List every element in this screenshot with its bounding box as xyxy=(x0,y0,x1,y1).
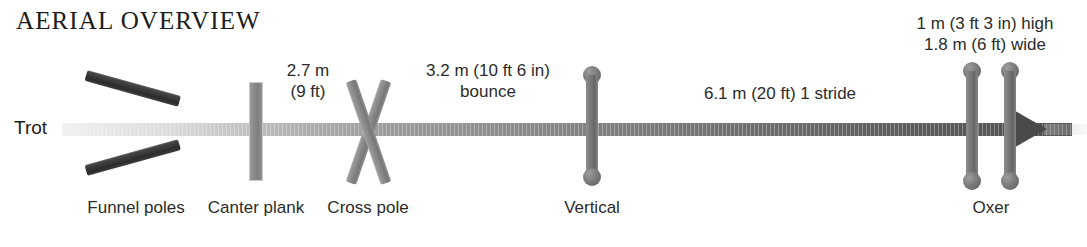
canter-plank-shape xyxy=(249,82,263,181)
aerial-overview-diagram: AERIAL OVERVIEW Trot Funnel poles Canter… xyxy=(0,0,1087,247)
distance-canter-plank-to-cross-pole: 2.7 m (9 ft) xyxy=(268,60,348,102)
standard-ball-bottom xyxy=(583,168,601,186)
distance-line-metric: 3.2 m (10 ft 6 in) xyxy=(398,60,578,81)
funnel-pole-bottom xyxy=(85,139,181,176)
obstacle-label-vertical: Vertical xyxy=(532,198,652,218)
obstacle-label-funnel-poles: Funnel poles xyxy=(76,198,196,218)
obstacle-label-oxer: Oxer xyxy=(931,198,1051,218)
obstacle-label-canter-plank: Canter plank xyxy=(196,198,316,218)
standard-post xyxy=(586,75,598,177)
distance-cross-pole-to-vertical: 3.2 m (10 ft 6 in) bounce xyxy=(398,60,578,102)
track-tail xyxy=(1044,124,1087,135)
page-title: AERIAL OVERVIEW xyxy=(16,7,261,35)
funnel-pole-top xyxy=(85,70,181,107)
standard-post xyxy=(966,71,978,181)
distance-line-metric: 2.7 m xyxy=(268,60,348,81)
cross-pole-shape xyxy=(342,78,394,186)
standard-post xyxy=(1004,71,1016,181)
distance-line-type: bounce xyxy=(398,81,578,102)
distance-line-imperial: (9 ft) xyxy=(268,81,348,102)
trot-track-line xyxy=(62,123,1072,136)
oxer-height-text: 1 m (3 ft 3 in) high xyxy=(890,13,1080,34)
oxer-standard-front xyxy=(960,62,984,190)
gait-label-trot: Trot xyxy=(14,117,47,139)
standard-ball-bottom xyxy=(1001,172,1019,190)
oxer-spec-callout: 1 m (3 ft 3 in) high 1.8 m (6 ft) wide xyxy=(890,13,1080,55)
oxer-width-text: 1.8 m (6 ft) wide xyxy=(890,34,1080,55)
vertical-obstacle-shape xyxy=(580,66,604,186)
standard-ball-bottom xyxy=(963,172,981,190)
distance-vertical-to-oxer: 6.1 m (20 ft) 1 stride xyxy=(670,83,890,104)
oxer-standard-back xyxy=(998,62,1022,190)
obstacle-label-cross-pole: Cross pole xyxy=(308,198,428,218)
